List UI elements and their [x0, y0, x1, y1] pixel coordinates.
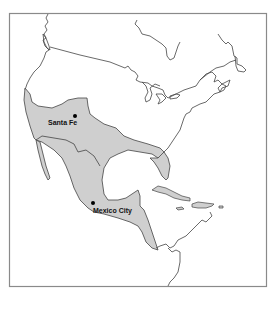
city-label-santa-fe: Santa Fe: [48, 119, 77, 126]
city-marker-mexico-city: [91, 201, 95, 205]
cuba: [152, 186, 190, 201]
northeast-coast: [168, 34, 246, 98]
vancouver-island: [43, 34, 50, 50]
map-canvas: Santa Fe Mexico City: [0, 0, 277, 314]
hispaniola: [192, 202, 214, 208]
jamaica: [176, 207, 184, 210]
city-marker-santa-fe: [73, 114, 77, 118]
puerto-rico: [219, 206, 223, 208]
city-label-mexico-city: Mexico City: [93, 207, 132, 215]
great-lakes: [142, 82, 180, 104]
florida: [150, 152, 170, 180]
west-coastline: [25, 14, 49, 90]
us-canada-border: [50, 47, 168, 98]
hudson-bay-coast: [135, 20, 180, 60]
south-america-coast: [156, 212, 212, 286]
